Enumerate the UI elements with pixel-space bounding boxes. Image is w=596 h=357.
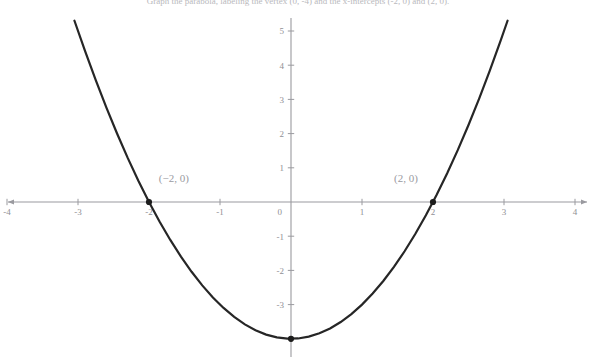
y-tick-label: 2 — [280, 129, 285, 139]
x-tick-label: 0 — [278, 207, 283, 217]
y-tick-label: 1 — [280, 163, 285, 173]
right-x-intercept-label: (2, 0) — [394, 172, 418, 185]
x-tick-label: -1 — [216, 207, 224, 217]
vertex-marker — [288, 336, 294, 342]
y-tick-label: 5 — [280, 26, 285, 36]
x-tick-label: -4 — [3, 207, 11, 217]
graph-figure: Graph the parabola, labeling the vertex … — [0, 0, 596, 357]
x-axis-arrow-left-icon — [8, 200, 14, 205]
y-tick-label: -3 — [277, 300, 285, 310]
x-tick-label: 4 — [573, 207, 578, 217]
parabola-plot: -4-3-2-101234 -3-2-112345 (−2, 0)(2, 0) — [0, 0, 596, 357]
axes-group — [8, 18, 587, 357]
y-tick-label: -2 — [277, 266, 285, 276]
y-tick-label: 4 — [280, 61, 285, 71]
x-tick-label: 2 — [431, 207, 436, 217]
y-tick-label: -1 — [277, 232, 285, 242]
left-x-intercept-marker — [146, 199, 152, 205]
x-tick-label: -3 — [74, 207, 82, 217]
y-tick-label: 3 — [280, 95, 285, 105]
right-x-intercept-marker — [430, 199, 436, 205]
x-axis-arrow-right-icon — [581, 200, 587, 205]
x-tick-label: 3 — [502, 207, 507, 217]
left-x-intercept-label: (−2, 0) — [159, 172, 189, 185]
x-tick-label: 1 — [360, 207, 365, 217]
